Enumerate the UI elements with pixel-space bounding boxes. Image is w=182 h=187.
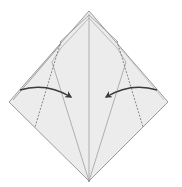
origami-diagram: Origami fold diagram: fold both side fla… xyxy=(0,0,182,187)
bottom-point xyxy=(88,180,90,182)
diagram-svg xyxy=(0,0,182,187)
paper-diamond xyxy=(9,11,168,181)
